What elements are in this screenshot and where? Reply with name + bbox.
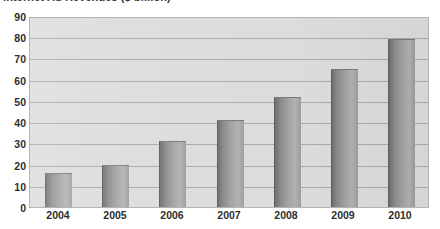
x-tick-label-2005: 2005 [91, 210, 139, 221]
bar-2007 [217, 120, 244, 207]
y-tick-label-20: 20 [2, 161, 26, 172]
x-tick-label-2009: 2009 [319, 210, 367, 221]
gridline-80 [30, 38, 428, 39]
y-tick-label-80: 80 [2, 33, 26, 44]
bar-2005 [102, 165, 129, 207]
x-tick-label-2006: 2006 [148, 210, 196, 221]
gridline-70 [30, 59, 428, 60]
y-tick-label-30: 30 [2, 139, 26, 150]
gridline-90 [30, 17, 428, 18]
x-axis: 2004200520062007200820092010 [29, 210, 429, 226]
x-tick-label-2004: 2004 [34, 210, 82, 221]
bar-2008 [274, 97, 301, 207]
y-tick-label-90: 90 [2, 12, 26, 23]
bar-2004 [45, 173, 72, 207]
plot-area [29, 17, 429, 208]
x-tick-label-2007: 2007 [205, 210, 253, 221]
bar-2006 [159, 141, 186, 207]
y-tick-label-70: 70 [2, 54, 26, 65]
chart-title: Internet Ad Revenues ($ billion) [3, 0, 171, 3]
y-axis: 0102030405060708090 [0, 17, 26, 208]
gridline-50 [30, 102, 428, 103]
y-tick-label-0: 0 [2, 203, 26, 214]
bar-chart-figure: Internet Ad Revenues ($ billion) 0102030… [0, 0, 440, 229]
y-tick-label-40: 40 [2, 118, 26, 129]
y-tick-label-50: 50 [2, 97, 26, 108]
bar-2010 [388, 39, 415, 207]
gridline-60 [30, 81, 428, 82]
bar-2009 [331, 69, 358, 207]
y-tick-label-60: 60 [2, 76, 26, 87]
y-tick-label-10: 10 [2, 182, 26, 193]
x-tick-label-2010: 2010 [376, 210, 424, 221]
x-tick-label-2008: 2008 [262, 210, 310, 221]
